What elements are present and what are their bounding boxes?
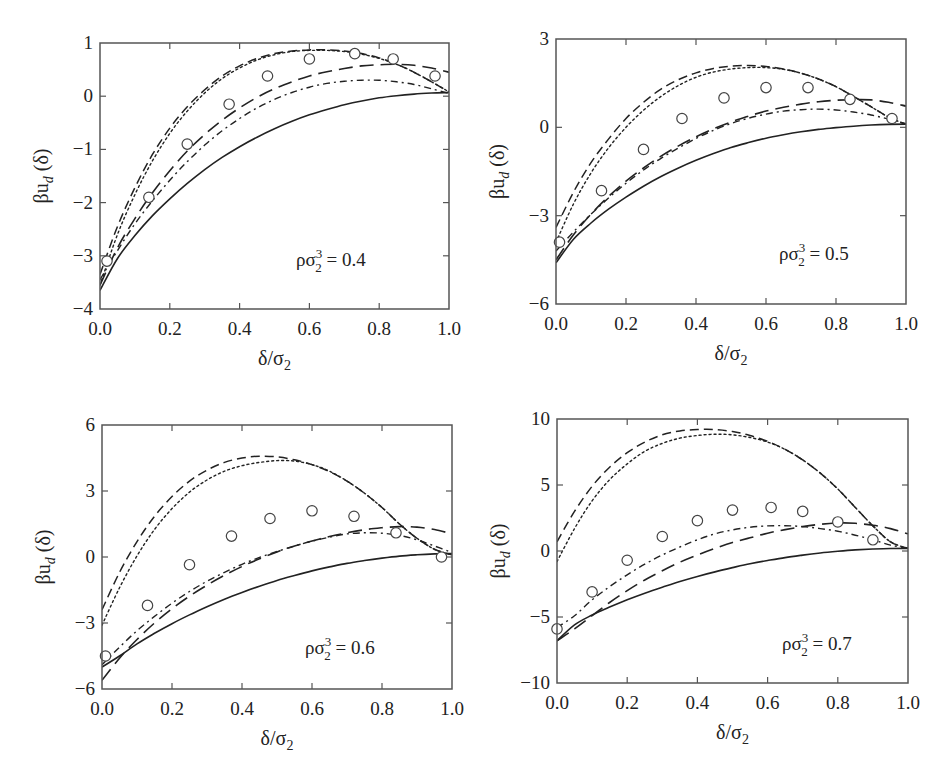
y-tick-label: 0: [541, 540, 551, 561]
series-solid-line: [556, 124, 906, 263]
simulation-point-marker: [184, 560, 194, 570]
y-tick-label: −3: [73, 245, 93, 266]
simulation-point-marker: [388, 54, 398, 64]
y-tick-label: −3: [75, 612, 95, 633]
y-tick-label: −2: [73, 192, 93, 213]
simulation-point-marker: [587, 587, 597, 597]
y-tick-label: 0: [86, 546, 96, 567]
simulation-point-marker: [833, 517, 843, 527]
panel-bottom-right: 0.00.20.40.60.81.0−10−50510δ/σ2βud (δ)ρσ…: [487, 408, 920, 747]
simulation-point-marker: [262, 71, 272, 81]
simulation-point-marker: [224, 99, 234, 109]
simulation-point-marker: [304, 54, 314, 64]
simulation-point-marker: [142, 600, 152, 610]
simulation-point-marker: [144, 192, 154, 202]
x-tick-label: 0.4: [684, 313, 708, 334]
series-dash-line: [556, 66, 906, 228]
series-solid-line: [102, 554, 452, 668]
x-tick-label: 0.2: [158, 318, 182, 339]
y-tick-label: 3: [86, 480, 96, 501]
simulation-point-marker: [692, 515, 702, 525]
simulation-point-marker: [803, 82, 813, 92]
series-long-dash-line: [557, 523, 908, 641]
y-tick-label: 0: [84, 85, 94, 106]
x-tick-label: 0.0: [90, 698, 114, 719]
x-axis-label: δ/σ2: [258, 347, 291, 373]
simulation-point-marker: [350, 48, 360, 58]
series-solid-line: [100, 93, 449, 291]
y-tick-label: −5: [530, 606, 550, 627]
series-long-dash-line: [100, 64, 449, 285]
plot-frame: [556, 39, 906, 304]
simulation-point-marker: [719, 93, 729, 103]
series-dotted-line: [556, 67, 906, 242]
x-tick-label: 0.0: [545, 692, 569, 713]
panel-bottom-left: 0.00.20.40.60.81.0−6−3036δ/σ2βud (δ)ρσ32…: [32, 414, 464, 753]
x-tick-label: 0.2: [160, 698, 184, 719]
series-solid-line: [557, 548, 908, 640]
plot-frame: [100, 43, 449, 309]
simulation-point-marker: [391, 528, 401, 538]
y-tick-label: −6: [75, 678, 95, 699]
x-tick-label: 0.6: [300, 698, 324, 719]
simulation-point-marker: [761, 82, 771, 92]
x-tick-label: 0.8: [370, 698, 394, 719]
simulation-point-marker: [622, 555, 632, 565]
y-tick-label: 5: [541, 474, 551, 495]
x-tick-label: 0.4: [228, 318, 252, 339]
simulation-point-marker: [798, 506, 808, 516]
chart-grid: 0.00.20.40.60.81.0−4−3−2−101δ/σ2βud (δ)ρ…: [0, 0, 948, 773]
y-tick-label: 6: [86, 414, 96, 435]
x-tick-label: 0.0: [88, 318, 112, 339]
x-tick-label: 0.4: [230, 698, 254, 719]
x-axis-label: δ/σ2: [716, 721, 749, 747]
series-dash-line: [100, 50, 449, 275]
simulation-point-marker: [307, 506, 317, 516]
simulation-point-marker: [182, 139, 192, 149]
x-axis-label: δ/σ2: [261, 727, 294, 753]
simulation-point-marker: [436, 552, 446, 562]
x-tick-label: 1.0: [437, 318, 461, 339]
series-group: [557, 429, 908, 640]
simulation-point-marker: [226, 531, 236, 541]
simulation-point-marker: [102, 256, 112, 266]
series-dash-dot-line: [556, 109, 906, 251]
plot-frame: [102, 425, 452, 689]
series-dotted-line: [102, 460, 452, 625]
density-annotation: ρσ32 = 0.4: [296, 246, 366, 275]
panel-top-left: 0.00.20.40.60.81.0−4−3−2−101δ/σ2βud (δ)ρ…: [30, 32, 461, 373]
y-axis-label: βud (δ): [487, 524, 513, 579]
density-annotation: ρσ32 = 0.7: [782, 630, 852, 659]
series-group: [102, 456, 452, 680]
x-tick-label: 0.8: [824, 313, 848, 334]
x-tick-label: 1.0: [894, 313, 918, 334]
density-annotation: ρσ32 = 0.5: [779, 240, 849, 269]
x-tick-label: 0.6: [298, 318, 322, 339]
y-tick-label: −10: [520, 672, 550, 693]
x-tick-label: 0.2: [615, 692, 639, 713]
simulation-point-marker: [766, 502, 776, 512]
simulation-point-marker: [349, 511, 359, 521]
y-tick-label: 0: [540, 116, 550, 137]
x-tick-label: 0.0: [544, 313, 568, 334]
series-dash-dot-line: [100, 80, 449, 280]
x-tick-label: 1.0: [440, 698, 464, 719]
x-tick-label: 0.4: [686, 692, 710, 713]
simulation-point-marker: [868, 535, 878, 545]
simulation-point-marker: [657, 531, 667, 541]
density-annotation: ρσ32 = 0.6: [305, 634, 375, 663]
simulation-point-marker: [265, 513, 275, 523]
figure: 0.00.20.40.60.81.0−4−3−2−101δ/σ2βud (δ)ρ…: [0, 0, 948, 773]
simulation-point-marker: [596, 185, 606, 195]
y-axis-label: βud (δ): [30, 149, 56, 204]
simulation-point-marker: [430, 71, 440, 81]
x-tick-label: 0.8: [826, 692, 850, 713]
x-tick-label: 0.6: [756, 692, 780, 713]
simulation-point-marker: [887, 113, 897, 123]
simulation-point-marker: [845, 94, 855, 104]
series-dash-line: [557, 429, 908, 548]
y-axis-label: βud (δ): [32, 530, 58, 585]
y-tick-label: 1: [84, 32, 94, 53]
y-tick-label: 3: [540, 28, 550, 49]
panel-top-right: 0.00.20.40.60.81.0−6−303δ/σ2βud (δ)ρσ32 …: [486, 28, 918, 368]
